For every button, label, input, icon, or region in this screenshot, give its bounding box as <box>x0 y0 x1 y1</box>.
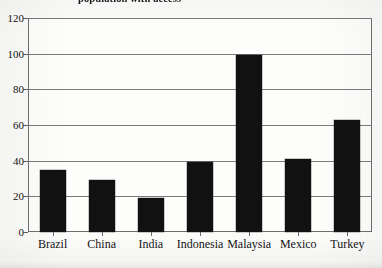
x-tick-label-indonesia: Indonesia <box>177 236 224 252</box>
gridline <box>28 18 372 19</box>
bar-brazil <box>40 170 66 232</box>
y-tick-label: 120 <box>8 13 25 23</box>
bar-malaysia <box>236 55 262 232</box>
gridline <box>28 125 372 126</box>
y-tick-label: 100 <box>8 49 25 59</box>
bar-china <box>89 180 115 232</box>
y-tick-mark <box>23 89 28 90</box>
y-tick-mark <box>23 196 28 197</box>
bar-turkey <box>334 120 360 232</box>
plot-area <box>28 18 372 232</box>
y-tick-mark <box>23 125 28 126</box>
x-tick-label-brazil: Brazil <box>38 236 67 252</box>
x-tick-label-china: China <box>87 236 116 252</box>
y-tick-mark <box>23 232 28 233</box>
bar-mexico <box>285 159 311 232</box>
y-axis-labels: 020406080100120 <box>0 18 24 232</box>
chart-title-text: population with access <box>78 0 308 5</box>
x-axis-labels: BrazilChinaIndiaIndonesiaMalaysiaMexicoT… <box>28 236 372 260</box>
x-tick-label-india: India <box>139 236 164 252</box>
x-tick-label-mexico: Mexico <box>280 236 317 252</box>
bar-indonesia <box>187 162 213 232</box>
y-tick-mark <box>23 54 28 55</box>
x-tick-label-turkey: Turkey <box>330 236 364 252</box>
y-tick-mark <box>23 161 28 162</box>
x-tick-label-malaysia: Malaysia <box>227 236 271 252</box>
bar-india <box>138 198 164 232</box>
scan-edge-shadow <box>0 261 382 268</box>
chart-screenshot: population with access 020406080100120 B… <box>0 0 382 268</box>
chart-title: population with access <box>78 0 308 5</box>
gridline <box>28 54 372 55</box>
y-tick-mark <box>23 18 28 19</box>
gridline <box>28 89 372 90</box>
